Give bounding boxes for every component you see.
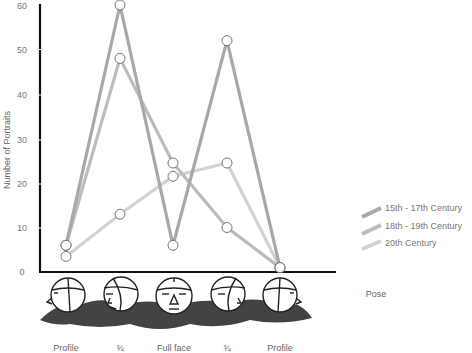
head-three-quarter-right-icon xyxy=(211,277,245,311)
head-full-face-icon xyxy=(156,278,192,314)
legend-item-15th-17th: 15th - 17th Century xyxy=(362,203,463,217)
x-label-full-face: Full face xyxy=(157,343,191,353)
legend-swatch xyxy=(362,208,381,217)
y-axis-title: Number of Portraits xyxy=(2,110,12,189)
y-tick-40: 40 xyxy=(17,90,27,100)
y-tick-30: 30 xyxy=(17,135,27,145)
head-profile-left-icon xyxy=(47,278,85,312)
legend-item-20th: 20th Century xyxy=(362,238,437,249)
legend-swatch xyxy=(362,241,381,249)
data-point-marker xyxy=(115,209,125,219)
data-point-marker xyxy=(168,171,178,181)
y-tick-20: 20 xyxy=(17,179,27,189)
head-illustrations xyxy=(40,277,312,329)
pose-line-chart: 0 10 20 30 40 50 60 Number of Portraits … xyxy=(0,0,472,353)
x-category-labels: Profile ¾ Full face ¾ Profile xyxy=(53,343,293,353)
data-point-marker xyxy=(168,240,178,250)
y-tick-0: 0 xyxy=(19,267,24,277)
series-layer xyxy=(61,0,285,273)
data-point-marker xyxy=(61,240,71,250)
y-tick-labels: 0 10 20 30 40 50 60 xyxy=(17,1,27,277)
x-label-profile-right: Profile xyxy=(267,343,293,353)
y-tick-10: 10 xyxy=(17,223,27,233)
data-point-marker xyxy=(168,158,178,168)
legend-label: 18th - 19th Century xyxy=(385,221,463,231)
data-point-marker xyxy=(61,251,71,261)
head-three-quarter-left-icon xyxy=(104,277,138,311)
data-point-marker xyxy=(222,223,232,233)
data-point-marker xyxy=(222,36,232,46)
axes xyxy=(38,4,336,272)
y-tick-50: 50 xyxy=(17,45,27,55)
legend-label: 15th - 17th Century xyxy=(385,203,463,213)
legend-item-18th-19th: 18th - 19th Century xyxy=(362,221,463,234)
x-axis-title: Pose xyxy=(366,289,387,299)
x-label-three-quarter-left: ¾ xyxy=(116,343,124,353)
legend-swatch xyxy=(362,225,381,234)
y-tick-60: 60 xyxy=(17,1,27,11)
legend: 15th - 17th Century 18th - 19th Century … xyxy=(362,203,463,249)
data-point-marker xyxy=(115,53,125,63)
legend-label: 20th Century xyxy=(385,238,437,248)
data-point-marker xyxy=(115,0,125,10)
x-label-profile-left: Profile xyxy=(53,343,79,353)
data-point-marker xyxy=(222,158,232,168)
x-label-three-quarter-right: ¾ xyxy=(223,343,231,353)
data-point-marker xyxy=(275,263,285,273)
